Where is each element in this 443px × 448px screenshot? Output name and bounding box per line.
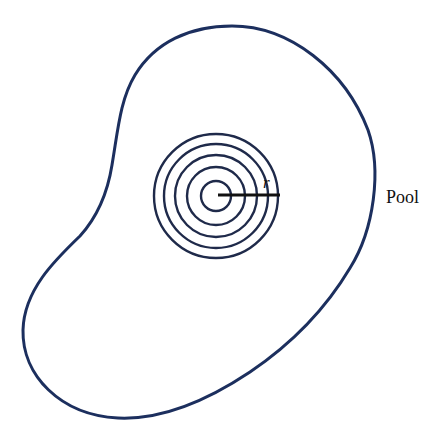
radius-label: r bbox=[263, 174, 270, 191]
pool-label: Pool bbox=[386, 188, 419, 206]
pool-outline bbox=[23, 26, 375, 418]
pool-diagram bbox=[0, 0, 443, 448]
